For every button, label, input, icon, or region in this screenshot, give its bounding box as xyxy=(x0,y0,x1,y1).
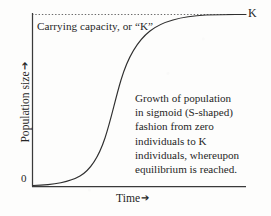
y-axis-arrow-icon: ➔ xyxy=(19,62,30,71)
description-line: equilibrium is reached. xyxy=(135,162,239,176)
y-axis-label: Population size➔ xyxy=(19,45,32,161)
description-line: in sigmoid (S-shaped) xyxy=(135,105,239,119)
k-asymptote-label: K xyxy=(248,6,257,21)
description-line: individuals, whereupon xyxy=(135,148,239,162)
y-axis-label-text: Population size xyxy=(19,71,32,142)
description-line: Growth of population xyxy=(135,91,239,105)
figure-description-block: Growth of population in sigmoid (S-shape… xyxy=(135,91,239,176)
description-line: individuals to K xyxy=(135,134,239,148)
x-axis-label-text: Time xyxy=(116,192,140,205)
origin-zero-label: 0 xyxy=(21,172,27,184)
x-axis-label: Time➔ xyxy=(116,192,149,205)
x-axis-arrow-icon: ➔ xyxy=(140,192,149,203)
description-line: fashion from zero xyxy=(135,119,239,133)
carrying-capacity-caption: Carrying capacity, or “K” xyxy=(37,20,153,32)
population-growth-figure: Carrying capacity, or “K” K 0 Population… xyxy=(0,0,271,216)
